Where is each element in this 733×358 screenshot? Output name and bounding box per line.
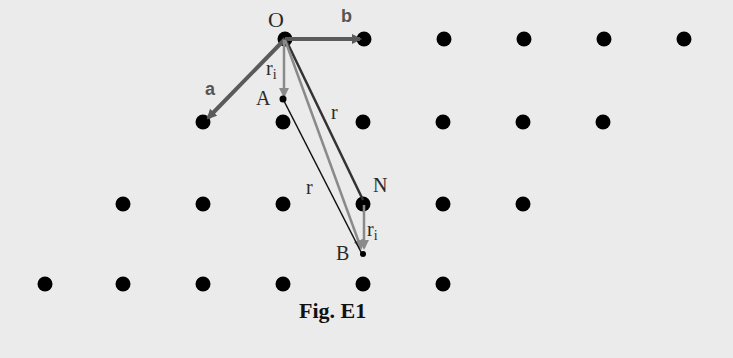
lattice-point [677,32,692,47]
figure-caption: Fig. E1 [299,298,366,323]
point-N-label: N [373,174,387,196]
lattice-point [516,115,531,130]
r-lower-label: r [306,176,313,198]
lattice-point [437,32,452,47]
vector-b-label: b [341,6,352,26]
origin-label: O [268,7,284,32]
lattice-point [597,32,612,47]
lattice-figure: O b a ri A r r N ri B Fig. E1 [0,0,733,358]
lattice-point [596,115,611,130]
lattice-point [436,277,451,292]
lattice-point [276,197,291,212]
lattice-point [436,115,451,130]
point-A-label: A [256,87,271,109]
lattice-point [116,197,131,212]
ri-upper-label: ri [266,57,277,82]
lattice-point [436,197,451,212]
r-combined-arrow [285,40,361,248]
ri-lower-label: ri [367,218,378,243]
vector-a-label: a [205,79,216,99]
r-lower-line [283,99,362,254]
lattice-point [196,277,211,292]
lattice-point [516,197,531,212]
lattice-diagram: O b a ri A r r N ri B Fig. E1 [0,0,733,358]
lattice-point [116,277,131,292]
r-upper-label: r [331,101,338,123]
lattice-point [38,277,53,292]
lattice-point [356,277,371,292]
point-B-marker [360,251,366,257]
point-A-marker [280,96,287,103]
point-B-label: B [336,242,349,264]
lattice-point [276,277,291,292]
lattice-point [276,115,291,130]
lattice-point [196,197,211,212]
lattice-point [517,32,532,47]
lattice-point [356,115,371,130]
r-upper-line [286,40,363,200]
